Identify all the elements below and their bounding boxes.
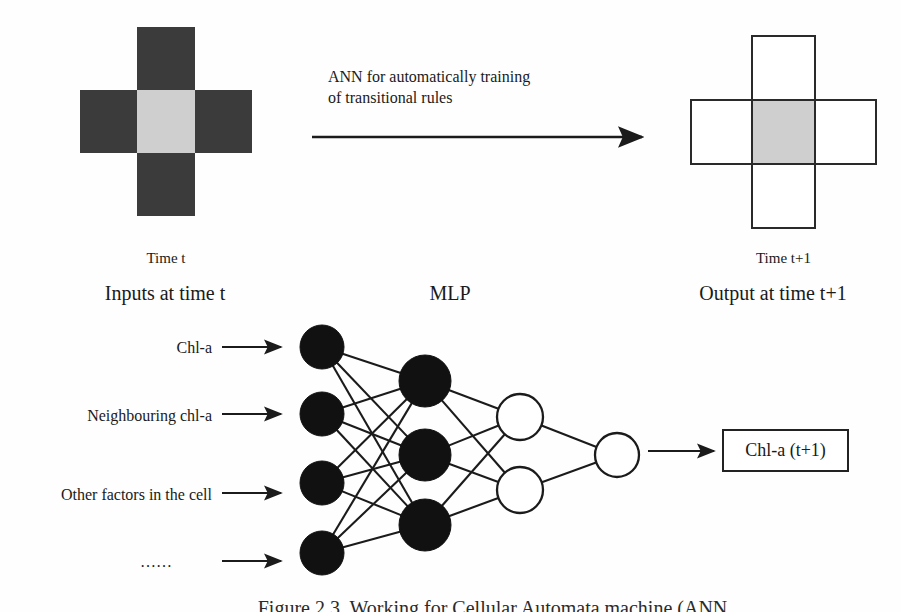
output-box-label: Chl-a (t+1) (745, 440, 826, 461)
mlp-input-label-neighbouring-chl-a: Neighbouring chl-a (18, 406, 212, 425)
cell-east (195, 90, 252, 153)
figure-canvas: Time t Inputs at time t ANN for automati… (0, 0, 901, 612)
mlp-input-label-ellipsis: …… (100, 552, 212, 571)
cell-south (751, 163, 816, 229)
mlp-node-hidden-1-2 (399, 429, 451, 481)
mlp-edge (441, 433, 506, 507)
mlp-edge (341, 353, 402, 373)
mlp-edge (336, 362, 409, 438)
cell-west (80, 90, 137, 153)
mlp-edge (341, 421, 403, 446)
cell-west (690, 99, 753, 165)
figure-caption: Figure 2.3. Working for Cellular Automat… (170, 596, 830, 612)
mlp-node-input-4 (300, 531, 344, 575)
time-t-plus-1-label: Time t+1 (690, 249, 877, 267)
mlp-node-hidden-2-1 (497, 394, 543, 440)
mlp-edge (341, 491, 403, 516)
time-t-label: Time t (80, 249, 252, 267)
mlp-edge (341, 461, 402, 478)
cell-center (137, 90, 195, 153)
mlp-node-hidden-1-1 (399, 355, 451, 407)
mlp-title: MLP (380, 281, 520, 305)
mlp-edge (447, 425, 500, 446)
inputs-at-time-t-label: Inputs at time t (40, 281, 290, 305)
cell-north (137, 27, 195, 90)
output-box: Chl-a (t+1) (722, 429, 849, 472)
mlp-layer-output (595, 433, 639, 477)
mlp-input-label-other-factors: Other factors in the cell (8, 485, 212, 504)
output-at-time-t-plus-1-label: Output at time t+1 (648, 281, 898, 305)
mlp-edges (332, 353, 598, 548)
neighbourhood-before (80, 27, 252, 217)
mlp-node-hidden-2-2 (497, 467, 543, 513)
mlp-edge (441, 399, 506, 474)
cell-south (137, 153, 195, 216)
mlp-edge (448, 497, 501, 516)
mlp-edge (332, 364, 413, 504)
mlp-edge (448, 463, 501, 482)
mlp-node-input-2 (300, 392, 344, 436)
mlp-edge (447, 390, 500, 410)
mlp-node-input-3 (300, 461, 344, 505)
mlp-input-label-chl-a: Chl-a (40, 338, 212, 357)
mlp-node-output-1 (595, 433, 639, 477)
mlp-edge (336, 429, 409, 508)
mlp-edge (341, 531, 402, 548)
neighbourhood-after (690, 35, 877, 231)
mlp-layer-hidden-2 (497, 394, 543, 513)
mlp-edge (540, 462, 598, 483)
mlp-edge (332, 402, 412, 536)
mlp-edge (336, 398, 408, 469)
cell-center (751, 99, 816, 165)
mlp-layer-input (300, 325, 344, 575)
cell-east (814, 99, 877, 165)
mlp-node-input-1 (300, 325, 344, 369)
cell-north (751, 35, 816, 101)
mlp-node-hidden-1-3 (399, 499, 451, 551)
mlp-layer-hidden-1 (399, 355, 451, 551)
mlp-edge (337, 472, 408, 540)
mlp-edge (540, 425, 599, 448)
mlp-edge (341, 388, 402, 408)
transition-rule-text: ANN for automatically training of transi… (328, 66, 628, 108)
